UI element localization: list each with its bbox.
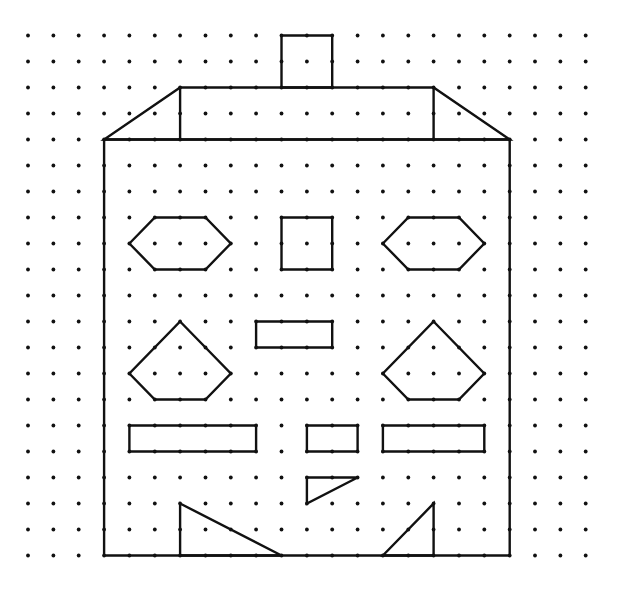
- grid-dot: [559, 268, 563, 272]
- grid-dot: [584, 216, 588, 220]
- grid-dot: [52, 320, 56, 324]
- grid-dot: [127, 112, 131, 116]
- grid-dot: [482, 398, 486, 402]
- grid-dot: [482, 320, 486, 324]
- grid-dot: [356, 112, 360, 116]
- grid-dot: [584, 190, 588, 194]
- grid-dot: [178, 476, 182, 480]
- grid-dot: [127, 476, 131, 480]
- grid-dot: [127, 346, 131, 350]
- grid-dot: [457, 476, 461, 480]
- grid-dot: [26, 320, 30, 324]
- grid-dot: [533, 502, 537, 506]
- grid-dot: [406, 372, 410, 376]
- grid-dot: [356, 502, 360, 506]
- grid-dot: [26, 450, 30, 454]
- grid-dot: [533, 112, 537, 116]
- grid-dot: [559, 398, 563, 402]
- grid-dot: [457, 502, 461, 506]
- grid-dot: [26, 268, 30, 272]
- grid-dot: [381, 112, 385, 116]
- grid-dot: [584, 398, 588, 402]
- grid-dot: [127, 320, 131, 324]
- grid-dot: [356, 320, 360, 324]
- grid-dot: [533, 372, 537, 376]
- grid-dot: [533, 554, 537, 558]
- grid-dot: [127, 502, 131, 506]
- grid-dot: [533, 86, 537, 90]
- grid-dot: [52, 216, 56, 220]
- grid-dot: [457, 528, 461, 532]
- grid-dot: [127, 164, 131, 168]
- grid-dot: [432, 294, 436, 298]
- grid-dot: [26, 60, 30, 64]
- grid-dot: [406, 320, 410, 324]
- grid-dot: [457, 190, 461, 194]
- grid-dot: [229, 502, 233, 506]
- grid-dot: [77, 138, 81, 142]
- grid-dot: [26, 554, 30, 558]
- grid-dot: [330, 112, 334, 116]
- grid-dot: [77, 528, 81, 532]
- grid-dot: [432, 346, 436, 350]
- grid-dot: [432, 34, 436, 38]
- grid-dot: [406, 34, 410, 38]
- right-pentagon: [383, 322, 484, 400]
- grid-dot: [559, 138, 563, 142]
- grid-dot: [26, 138, 30, 142]
- grid-dot: [559, 112, 563, 116]
- grid-dot: [559, 60, 563, 64]
- grid-dot: [254, 112, 258, 116]
- grid-dot: [533, 164, 537, 168]
- grid-dot: [482, 34, 486, 38]
- grid-dot: [406, 190, 410, 194]
- grid-dot: [254, 528, 258, 532]
- grid-dot: [77, 320, 81, 324]
- grid-dot: [330, 398, 334, 402]
- grid-dot: [533, 294, 537, 298]
- grid-dot: [77, 372, 81, 376]
- grid-dot: [356, 190, 360, 194]
- grid-dot: [584, 268, 588, 272]
- grid-dot: [153, 164, 157, 168]
- grid-dot: [204, 190, 208, 194]
- grid-dot: [26, 86, 30, 90]
- grid-dot: [584, 502, 588, 506]
- grid-dot: [305, 190, 309, 194]
- grid-dot: [52, 398, 56, 402]
- grid-dot: [254, 60, 258, 64]
- grid-dot: [356, 372, 360, 376]
- grid-dot: [533, 450, 537, 454]
- grid-dot: [153, 60, 157, 64]
- grid-dot: [77, 60, 81, 64]
- grid-dot: [77, 268, 81, 272]
- grid-dot: [26, 216, 30, 220]
- grid-dot: [432, 372, 436, 376]
- grid-dot: [204, 528, 208, 532]
- grid-dot: [482, 164, 486, 168]
- grid-dot: [584, 372, 588, 376]
- grid-dot: [52, 424, 56, 428]
- grid-dot: [52, 502, 56, 506]
- grid-dot: [559, 372, 563, 376]
- grid-dot: [356, 34, 360, 38]
- grid-dot: [381, 398, 385, 402]
- grid-dot: [305, 112, 309, 116]
- grid-dot: [559, 190, 563, 194]
- grid-dot: [229, 112, 233, 116]
- grid-dot: [52, 112, 56, 116]
- grid-dot: [482, 86, 486, 90]
- grid-dot: [204, 34, 208, 38]
- grid-dot: [204, 242, 208, 246]
- grid-dot: [153, 502, 157, 506]
- grid-dot: [305, 398, 309, 402]
- grid-dot: [381, 502, 385, 506]
- grid-dot: [432, 60, 436, 64]
- grid-dot: [280, 164, 284, 168]
- grid-dot: [482, 112, 486, 116]
- left-bar: [129, 426, 256, 452]
- grid-dot: [508, 112, 512, 116]
- grid-dot: [533, 346, 537, 350]
- grid-dot: [204, 60, 208, 64]
- grid-dot: [52, 294, 56, 298]
